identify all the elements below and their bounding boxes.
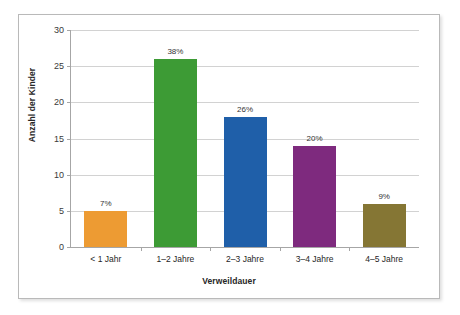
gridline (71, 102, 419, 103)
x-tick-mark (349, 247, 350, 251)
bar (363, 204, 406, 247)
y-tick-mark (67, 175, 71, 176)
bar-value-label: 38% (167, 47, 183, 56)
bar (293, 146, 336, 247)
bar (84, 211, 127, 247)
bar (224, 117, 267, 247)
x-tick-label: 2–3 Jahre (226, 254, 264, 264)
y-tick-label: 30 (54, 25, 64, 35)
bar-value-label: 9% (378, 192, 390, 201)
x-axis-title: Verweildauer (19, 276, 439, 286)
y-axis-title: Anzahl der Kinder (25, 20, 39, 190)
y-tick-label: 0 (59, 242, 64, 252)
y-tick-label: 25 (54, 61, 64, 71)
x-tick-label: 3–4 Jahre (296, 254, 334, 264)
y-tick-label: 20 (54, 97, 64, 107)
bar-value-label: 7% (100, 199, 112, 208)
bar (154, 59, 197, 247)
y-tick-mark (67, 30, 71, 31)
y-tick-mark (67, 66, 71, 67)
x-tick-label: < 1 Jahr (90, 254, 121, 264)
bar-value-label: 26% (237, 105, 253, 114)
y-tick-label: 15 (54, 134, 64, 144)
chart-figure-frame: Anzahl der Kinder Verweildauer 051015202… (18, 14, 440, 299)
x-tick-mark (141, 247, 142, 251)
y-tick-mark (67, 211, 71, 212)
y-tick-mark (67, 102, 71, 103)
x-tick-mark (210, 247, 211, 251)
y-tick-mark (67, 247, 71, 248)
gridline (71, 30, 419, 31)
bar-chart: Anzahl der Kinder Verweildauer 051015202… (19, 15, 439, 298)
bar-value-label: 20% (307, 134, 323, 143)
x-tick-label: 1–2 Jahre (156, 254, 194, 264)
gridline (71, 247, 419, 248)
x-tick-mark (280, 247, 281, 251)
x-tick-label: 4–5 Jahre (365, 254, 403, 264)
y-tick-mark (67, 139, 71, 140)
y-tick-label: 10 (54, 170, 64, 180)
y-tick-label: 5 (59, 206, 64, 216)
gridline (71, 66, 419, 67)
plot-area: 051015202530 7%38%26%20%9% < 1 Jahr1–2 J… (71, 30, 419, 247)
